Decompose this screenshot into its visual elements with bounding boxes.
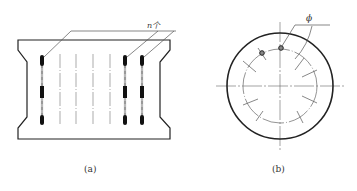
count-label: n个: [147, 21, 161, 30]
leader-lines: [44, 31, 176, 57]
dashed-lines: [60, 54, 110, 124]
electrode-bar: [123, 55, 127, 125]
electrode-bar: [40, 55, 44, 125]
caption-a: (a): [84, 164, 96, 174]
hole-marker: [279, 46, 284, 51]
hole-marker: [260, 51, 265, 56]
diameter-label: ϕ: [306, 13, 312, 23]
electrode-bar: [140, 55, 144, 125]
figure-canvas: n个 ϕ: [0, 0, 357, 191]
caption-b: (b): [272, 164, 285, 174]
panel-a: n个: [18, 21, 176, 139]
panel-b: ϕ: [216, 13, 344, 150]
center-lines: [216, 22, 344, 150]
